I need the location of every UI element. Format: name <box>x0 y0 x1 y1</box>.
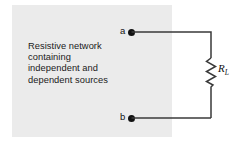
resistor-designator: R <box>218 62 225 74</box>
wire-top <box>132 32 212 58</box>
circuit-wires <box>0 0 236 150</box>
resistor-symbol <box>207 58 216 118</box>
circuit-figure: Resistive network containing independent… <box>0 0 236 150</box>
resistor-subscript: L <box>225 68 229 77</box>
resistor-designator-label: RL <box>218 62 229 77</box>
